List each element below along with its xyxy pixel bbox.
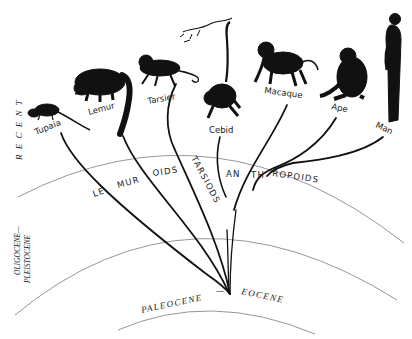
branch-anthropoid-stem (230, 210, 236, 294)
branch-lines (61, 84, 383, 294)
label-anthropoids-2: TH (250, 170, 265, 180)
tarsier-silhouette-icon (139, 55, 198, 86)
arc-oligocene-boundary (15, 239, 397, 315)
primate-evolution-diagram: Tupaia Lemur Tarsier Cebid Macaque Ape M… (0, 0, 412, 339)
label-macaque: Macaque (264, 85, 303, 100)
label-pleistocene: PLEISTOCENE (23, 234, 32, 284)
group-labels: LE MUR OIDS TARSIODS AN TH ROPOIDS (91, 153, 320, 205)
label-ape: Ape (331, 101, 349, 114)
branch-cebid (217, 137, 226, 197)
label-cebid: Cebid (209, 125, 233, 135)
arc-paleocene-boundary (118, 311, 315, 334)
label-oligocene: OLIGOCENE— (13, 226, 22, 275)
label-man: Man (374, 120, 394, 137)
label-eocene: EOCENE (240, 286, 286, 305)
label-lemuroids-2: MUR (116, 174, 141, 190)
label-lemur: Lemur (87, 100, 116, 117)
man-silhouette-icon (386, 14, 401, 123)
macaque-silhouette-icon (255, 42, 318, 86)
label-recent: R E C E N T (14, 99, 24, 161)
cebid-silhouette-icon (180, 18, 240, 118)
label-era-dash: — (215, 285, 225, 295)
animal-silhouettes (28, 14, 401, 135)
ape-silhouette-icon (320, 48, 367, 99)
branch-lemur (123, 136, 229, 293)
label-lemuroids-3: OIDS (152, 164, 179, 178)
label-tarsier: Tarsier (146, 91, 177, 106)
label-lemuroids-1: LE (91, 185, 106, 199)
lemur-silhouette-icon (74, 69, 130, 134)
label-anthropoids-1: AN (226, 169, 241, 179)
branch-macaque (234, 105, 287, 210)
label-tupaia: Tupaia (32, 117, 62, 137)
era-labels: R E C E N T OLIGOCENE— PLEISTOCENE PALEO… (13, 99, 285, 315)
branch-tarsier (168, 84, 230, 294)
label-anthropoids-3: ROPOIDS (272, 168, 320, 184)
